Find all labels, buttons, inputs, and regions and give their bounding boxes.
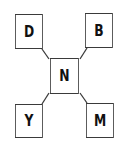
node-m-label: M (94, 112, 106, 130)
node-n-label: N (59, 67, 69, 85)
node-d: D (15, 14, 43, 49)
diagram-canvas: D B N Y M (0, 0, 125, 143)
node-y-label: Y (25, 112, 34, 130)
connector-y-n (42, 93, 49, 104)
node-m: M (86, 103, 114, 138)
node-b: B (85, 13, 113, 48)
connector-m-n (80, 93, 87, 103)
node-y: Y (15, 104, 43, 138)
connector-b-n (80, 48, 87, 59)
node-n-center: N (50, 58, 79, 94)
connector-d-n (42, 49, 49, 59)
node-d-label: D (24, 23, 34, 41)
node-b-label: B (94, 22, 103, 40)
